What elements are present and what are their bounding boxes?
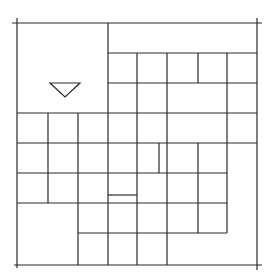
grid-diagram bbox=[0, 0, 272, 276]
triangle-marker-icon bbox=[50, 83, 80, 97]
vertical-lines bbox=[17, 18, 257, 270]
